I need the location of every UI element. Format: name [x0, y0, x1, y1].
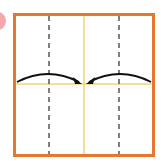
fold-diagram: [0, 0, 162, 162]
diagram-canvas: [0, 0, 162, 162]
